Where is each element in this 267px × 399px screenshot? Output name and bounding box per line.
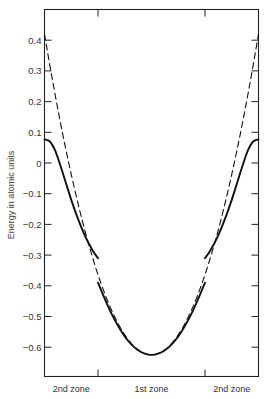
y-tick-label: −0.1 <box>23 188 42 199</box>
energy-band-solid-curve <box>45 139 99 258</box>
y-tick-label: −0.5 <box>23 311 42 322</box>
y-axis-ticks: 0.40.30.20.10−0.1−0.2−0.3−0.4−0.5−0.6 <box>23 35 259 353</box>
zone-label: 2nd zone <box>213 384 250 394</box>
plot-frame <box>45 10 259 377</box>
zone-labels: 2nd zone1st zone2nd zone <box>53 384 251 394</box>
y-tick-label: 0.2 <box>28 96 41 107</box>
y-tick-label: 0.3 <box>28 65 41 76</box>
y-tick-label: −0.6 <box>23 342 42 353</box>
energy-band-solid-curve <box>98 283 205 355</box>
y-tick-label: 0.4 <box>28 35 41 46</box>
y-tick-label: −0.2 <box>23 219 42 230</box>
plot-border <box>45 10 259 377</box>
y-tick-label: −0.3 <box>23 250 42 261</box>
y-tick-label: 0 <box>36 158 41 169</box>
y-axis-title: Energy in atomic units <box>6 150 16 239</box>
zone-label: 1st zone <box>134 384 168 394</box>
curves <box>45 34 259 355</box>
zone-label: 2nd zone <box>53 384 90 394</box>
y-tick-label: 0.1 <box>28 127 41 138</box>
y-tick-label: −0.4 <box>23 280 42 291</box>
free-electron-dashed-curve <box>45 34 259 355</box>
x-axis-ticks <box>98 10 205 377</box>
energy-band-solid-curve <box>205 139 259 258</box>
band-structure-chart: 0.40.30.20.10−0.1−0.2−0.3−0.4−0.5−0.6 En… <box>0 0 267 399</box>
